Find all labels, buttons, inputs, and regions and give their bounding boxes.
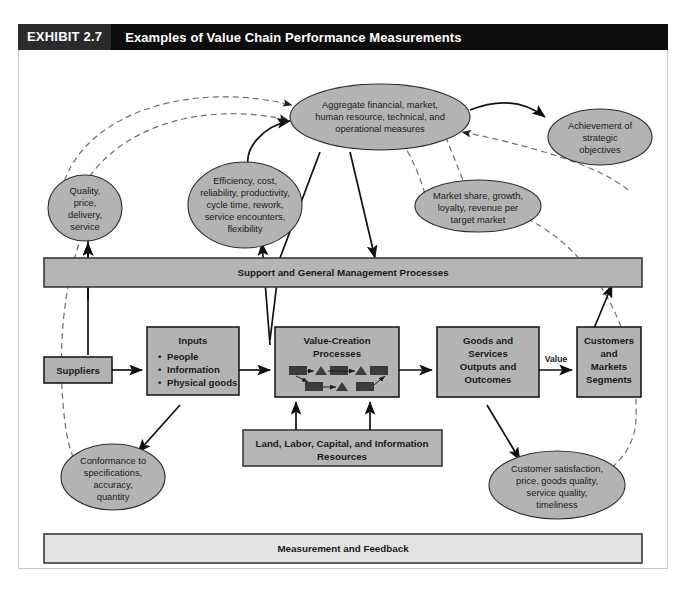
customers-line-2: and	[600, 348, 617, 359]
aggregate-line-3: operational measures	[335, 124, 425, 134]
customer-sat-line-3: service quality,	[527, 488, 588, 498]
ellipse-conformance: Conformance to specifications, accuracy,…	[61, 444, 165, 510]
measurement-bar-label: Measurement and Feedback	[277, 543, 409, 554]
efficiency-line-2: reliability, productivity,	[200, 188, 290, 198]
conn-aggregate-to-support-bar	[350, 152, 375, 258]
conn-efficiency-to-aggregate	[248, 121, 290, 168]
conn-goods-to-customer-sat	[487, 405, 520, 460]
conformance-line-3: accuracy,	[93, 480, 132, 490]
customers-line-4: Segments	[586, 374, 632, 385]
inputs-title: Inputs	[179, 335, 208, 346]
aggregate-line-1: Aggregate financial, market,	[322, 100, 438, 110]
conn-aggregate-to-achievement	[470, 103, 545, 117]
quality-line-2: price,	[74, 198, 97, 208]
inputs-bullet-label-3: Physical goods	[167, 377, 237, 388]
customer-sat-line-2: price, goods quality,	[516, 476, 598, 486]
quality-line-3: delivery,	[68, 210, 102, 220]
box-resources: Land, Labor, Capital, and Information Re…	[243, 430, 442, 466]
inputs-bullet-label-2: Information	[167, 364, 220, 375]
customer-sat-line-1: Customer satisfaction,	[511, 464, 603, 474]
resources-line-2: Resources	[317, 451, 368, 462]
vcp-title-line-2: Processes	[313, 348, 361, 359]
value-chain-diagram: Aggregate financial, market, human resou…	[0, 0, 686, 595]
ellipse-market-share: Market share, growth, loyalty, revenue p…	[415, 180, 541, 232]
box-inputs: Inputs • People • Information • Physical…	[147, 327, 239, 395]
conn-inputs-to-conformance	[138, 405, 180, 452]
box-suppliers: Suppliers	[44, 357, 112, 383]
inputs-bullet-label-1: People	[167, 351, 198, 362]
quality-line-4: service	[70, 222, 99, 232]
conformance-line-1: Conformance to	[80, 456, 146, 466]
market-share-line-3: target market	[451, 215, 506, 225]
ellipse-aggregate: Aggregate financial, market, human resou…	[290, 84, 470, 150]
resources-line-1: Land, Labor, Capital, and Information	[255, 438, 428, 449]
ellipse-achievement: Achievement of strategic objectives	[548, 109, 652, 165]
goods-line-1: Goods and	[463, 335, 513, 346]
goods-line-3: Outputs and	[460, 361, 517, 372]
ellipse-efficiency: Efficiency, cost, reliability, productiv…	[188, 162, 302, 248]
market-share-line-2: loyalty, revenue per	[438, 203, 518, 213]
efficiency-line-4: service encounters,	[205, 212, 286, 222]
achievement-line-1: Achievement of	[568, 121, 632, 131]
efficiency-line-5: flexibility	[227, 224, 262, 234]
value-edge-label: Value	[545, 354, 568, 364]
customer-sat-line-4: timeliness	[536, 500, 578, 510]
suppliers-label: Suppliers	[56, 365, 100, 376]
measurement-feedback-bar: Measurement and Feedback	[44, 534, 642, 563]
customers-line-3: Markets	[591, 361, 627, 372]
conformance-line-2: specifications,	[84, 468, 142, 478]
ellipse-customer-satisfaction: Customer satisfaction, price, goods qual…	[489, 451, 625, 519]
goods-line-4: Outcomes	[465, 374, 512, 385]
customers-line-1: Customers	[584, 335, 634, 346]
market-share-line-1: Market share, growth,	[433, 191, 523, 201]
aggregate-line-2: human resource, technical, and	[315, 112, 445, 122]
achievement-line-2: strategic	[582, 133, 617, 143]
efficiency-line-3: cycle time, rework,	[207, 200, 284, 210]
ellipse-quality: Quality, price, delivery, service	[48, 175, 122, 241]
box-value-creation-processes: Value-Creation Processes	[275, 327, 399, 397]
support-processes-bar: Support and General Management Processes	[44, 258, 642, 287]
box-goods-services: Goods and Services Outputs and Outcomes	[437, 327, 539, 397]
achievement-line-3: objectives	[579, 145, 621, 155]
box-customers-markets: Customers and Markets Segments	[577, 327, 641, 397]
efficiency-line-1: Efficiency, cost,	[213, 176, 277, 186]
exhibit-figure: EXHIBIT 2.7 Examples of Value Chain Perf…	[0, 0, 686, 595]
vcp-title-line-1: Value-Creation	[303, 335, 370, 346]
support-bar-label: Support and General Management Processes	[237, 267, 449, 278]
goods-line-2: Services	[468, 348, 507, 359]
conformance-line-4: quantity	[97, 492, 130, 502]
quality-line-1: Quality,	[70, 186, 101, 196]
